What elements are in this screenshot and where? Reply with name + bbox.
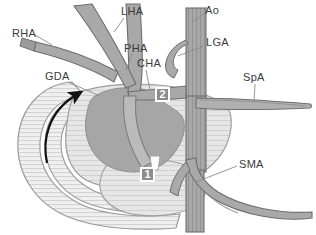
- label-lha: LHA: [121, 6, 143, 17]
- label-ao: Ao: [205, 5, 219, 16]
- label-rha: RHA: [12, 28, 36, 39]
- label-cha: CHA: [137, 58, 161, 69]
- label-sma: SMA: [239, 159, 264, 170]
- marker-2: 2: [155, 87, 170, 102]
- marker-1: 1: [140, 167, 155, 182]
- rha-distal-tip: [20, 38, 36, 51]
- anatomy-illustration: [0, 0, 316, 235]
- anatomical-figure: RHA LHA PHA CHA GDA Ao LGA SpA SMA 2 1: [0, 0, 316, 235]
- label-spa: SpA: [243, 72, 265, 83]
- leader-spa: [254, 84, 255, 102]
- leader-lha: [114, 18, 124, 32]
- label-lga: LGA: [206, 37, 229, 48]
- label-gda: GDA: [45, 71, 70, 82]
- aorta-vessel: [186, 8, 206, 232]
- label-pha: PHA: [124, 43, 148, 54]
- left-gastric-artery-vessel: [165, 40, 188, 78]
